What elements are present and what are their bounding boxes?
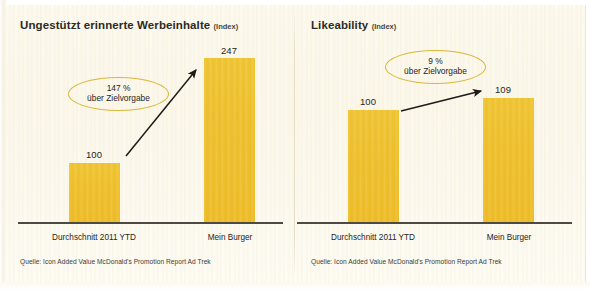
bar-mein-burger[interactable] xyxy=(204,58,255,222)
bar-value-label: 247 xyxy=(199,45,259,56)
bar-value-label: 100 xyxy=(338,96,398,107)
x-axis-line xyxy=(297,222,572,224)
source-note-werbeinhalte: Quelle: Icon Added Value McDonald's Prom… xyxy=(20,258,211,265)
category-label-durchschnitt: Durchschnitt 2011 YTD xyxy=(313,233,433,242)
chart-panel-werbeinhalte: Ungestützt erinnerte Werbeinhalte (Index… xyxy=(4,0,295,277)
plot-area-werbeinhalte: 100 247 Durchschnitt 2011 YTD Mein Burge… xyxy=(4,0,295,277)
bar-durchschnitt-2011-ytd[interactable] xyxy=(69,163,120,222)
category-label-mein-burger: Mein Burger xyxy=(463,233,555,242)
plot-area-likeability: 100 109 Durchschnitt 2011 YTD Mein Burge… xyxy=(295,0,586,277)
chart-panel-likeability: Likeability (Index) 100 109 Durchschnitt… xyxy=(295,0,586,277)
bar-value-label: 109 xyxy=(473,84,533,95)
bar-mein-burger[interactable] xyxy=(483,98,534,222)
source-note-likeability: Quelle: Icon Added Value McDonald's Prom… xyxy=(311,258,502,265)
callout-147-percent: 147 % über Zielvorgabe xyxy=(68,77,169,111)
category-label-mein-burger: Mein Burger xyxy=(184,233,276,242)
slide-canvas: Ungestützt erinnerte Werbeinhalte (Index… xyxy=(0,0,590,294)
callout-9-percent: 9 % über Zielvorgabe xyxy=(385,50,486,84)
paper-bottom-edge xyxy=(0,282,590,294)
category-label-durchschnitt: Durchschnitt 2011 YTD xyxy=(34,233,154,242)
x-axis-line xyxy=(18,222,283,224)
callout-subtext: über Zielvorgabe xyxy=(404,67,467,77)
bar-value-label: 100 xyxy=(64,149,124,160)
bar-durchschnitt-2011-ytd[interactable] xyxy=(348,110,399,222)
callout-subtext: über Zielvorgabe xyxy=(87,94,150,104)
